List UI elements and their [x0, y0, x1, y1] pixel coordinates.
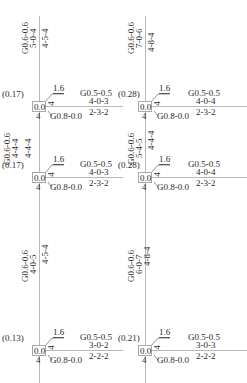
- lower-beam-label: G0.8-0.0: [50, 112, 82, 121]
- joint-below-value: 4: [142, 356, 147, 365]
- column-label-b: 4-8-4: [143, 247, 152, 267]
- column-label-b: 4-4-4: [147, 131, 156, 151]
- column-label-b: 4-5-4: [41, 29, 50, 49]
- beam-label-top: 4-0-3: [89, 97, 109, 106]
- joint-top-value: 1.6: [53, 155, 64, 165]
- joint-below-value: 4: [36, 356, 41, 365]
- beam-label-bot: 2-3-2: [89, 179, 109, 188]
- column-label-a: 4-4-4: [11, 139, 20, 159]
- joint-top-value: 1.6: [53, 328, 64, 338]
- joint-ratio: (0.28): [118, 90, 140, 99]
- column-label-b: 4-8-4: [147, 33, 156, 53]
- beam-label-bot: 2-3-2: [89, 108, 109, 117]
- joint-side-value: 4: [153, 101, 162, 106]
- column-label-a: 5-0-4: [29, 29, 38, 49]
- lower-beam-label: G0.8-0.0: [50, 356, 82, 365]
- beam-label-top: 4-0-4: [196, 168, 216, 177]
- beam-label-bot: 2-2-2: [196, 352, 216, 361]
- joint-top-value: 1.6: [53, 84, 64, 94]
- lower-beam-label: G0.8-0.0: [157, 112, 189, 121]
- lower-beam-label: G0.8-0.0: [157, 356, 189, 365]
- joint-top-value: 1.6: [159, 328, 170, 338]
- joint-side-value: 4: [153, 172, 162, 177]
- lower-beam-label: G0.8-0.0: [50, 183, 82, 192]
- lower-beam-label: G0.8-0.0: [157, 183, 189, 192]
- joint-ratio: (0.28): [118, 161, 140, 170]
- joint-below-value: 4: [142, 183, 147, 192]
- joint-ratio: (0.13): [2, 334, 24, 343]
- column-label-a: 7-0-6: [135, 29, 144, 49]
- joint-side-value: 4: [47, 345, 56, 350]
- column-label-b: 4-5-4: [41, 245, 50, 265]
- beam-label-top: 3-0-2: [89, 341, 109, 350]
- joint-top-value: 1.6: [159, 155, 170, 165]
- column-label-a: 5-4-5: [135, 139, 144, 159]
- joint-side-value: 4: [47, 101, 56, 106]
- joint-below-value: 4: [36, 112, 41, 121]
- joint-ratio: (0.21): [118, 334, 140, 343]
- column-label-b: 4-4-4: [24, 139, 33, 159]
- joint-below-value: 4: [142, 112, 147, 121]
- beam-label-top: 4-0-3: [89, 168, 109, 177]
- joint-side-value: 4: [47, 172, 56, 177]
- joint-ratio: (0.17): [2, 161, 24, 170]
- beam-label-bot: 2-2-2: [89, 352, 109, 361]
- joint-top-value: 1.6: [159, 84, 170, 94]
- beam-label-bot: 2-3-2: [196, 179, 216, 188]
- joint-below-value: 4: [36, 183, 41, 192]
- beam-label-top: 3-0-3: [196, 341, 216, 350]
- joint-side-value: 4: [153, 345, 162, 350]
- column-label-a: 4-0-5: [29, 255, 38, 275]
- beam-label-top: 4-0-4: [196, 97, 216, 106]
- joint-ratio: (0.17): [2, 90, 24, 99]
- beam-label-bot: 2-3-2: [196, 108, 216, 117]
